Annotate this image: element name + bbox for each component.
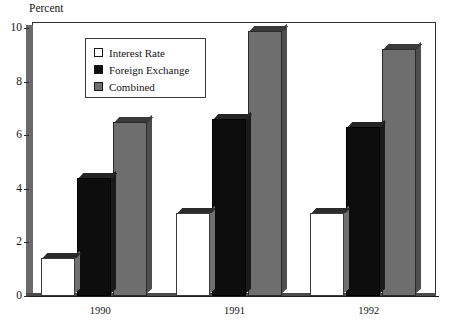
x-axis-line <box>26 296 439 297</box>
y-axis-wall <box>26 25 33 296</box>
bar <box>113 122 147 296</box>
bar-front-face <box>346 127 380 296</box>
y-tick-mark <box>24 296 29 297</box>
bar-front-face <box>248 31 282 296</box>
bar-front-face <box>113 122 147 296</box>
bar-front-face <box>77 178 111 296</box>
bar-side-face <box>380 120 385 293</box>
legend-swatch-icon <box>94 65 103 74</box>
legend-swatch-icon <box>94 82 103 91</box>
bar-side-face <box>416 42 421 293</box>
bar-side-face <box>210 206 215 294</box>
bar-front-face <box>382 49 416 296</box>
x-tick-label: 1990 <box>33 305 167 317</box>
legend-item-label: Interest Rate <box>109 47 165 59</box>
legend-item-interest-rate: Interest Rate <box>94 44 205 61</box>
bar-front-face <box>176 213 210 296</box>
bar-side-face <box>111 171 116 293</box>
y-tick-label: 4 <box>0 183 22 194</box>
bar-front-face <box>310 213 344 296</box>
y-tick-mark <box>24 82 29 83</box>
y-tick-mark <box>24 135 29 136</box>
bar <box>346 127 380 296</box>
bar-side-face <box>246 112 251 293</box>
y-tick-mark <box>24 189 29 190</box>
legend-item-combined: Combined <box>94 78 205 95</box>
chart-legend: Interest Rate Foreign Exchange Combined <box>85 38 206 98</box>
y-tick-mark <box>24 28 29 29</box>
y-tick-label: 2 <box>0 236 22 247</box>
bar <box>382 49 416 296</box>
x-tick-label: 1991 <box>167 305 301 317</box>
x-tick-label: 1992 <box>302 305 436 317</box>
bar-chart: Percent 0246810 199019911992 Interest Ra… <box>0 0 454 332</box>
bar-side-face <box>282 23 287 293</box>
bar-side-face <box>344 206 349 294</box>
y-tick-label: 8 <box>0 76 22 87</box>
bar <box>77 178 111 296</box>
y-tick-label: 6 <box>0 129 22 140</box>
bar <box>41 258 75 296</box>
legend-swatch-icon <box>94 48 103 57</box>
legend-item-label: Foreign Exchange <box>109 64 189 76</box>
bar-front-face <box>41 258 75 296</box>
bar <box>176 213 210 296</box>
y-tick-mark <box>24 242 29 243</box>
y-tick-label: 10 <box>0 22 22 33</box>
bar <box>310 213 344 296</box>
y-tick-label: 0 <box>0 290 22 301</box>
y-axis-title: Percent <box>29 2 63 15</box>
bar <box>248 31 282 296</box>
bar-side-face <box>147 115 152 294</box>
legend-item-label: Combined <box>109 81 155 93</box>
legend-item-foreign-exchange: Foreign Exchange <box>94 61 205 78</box>
